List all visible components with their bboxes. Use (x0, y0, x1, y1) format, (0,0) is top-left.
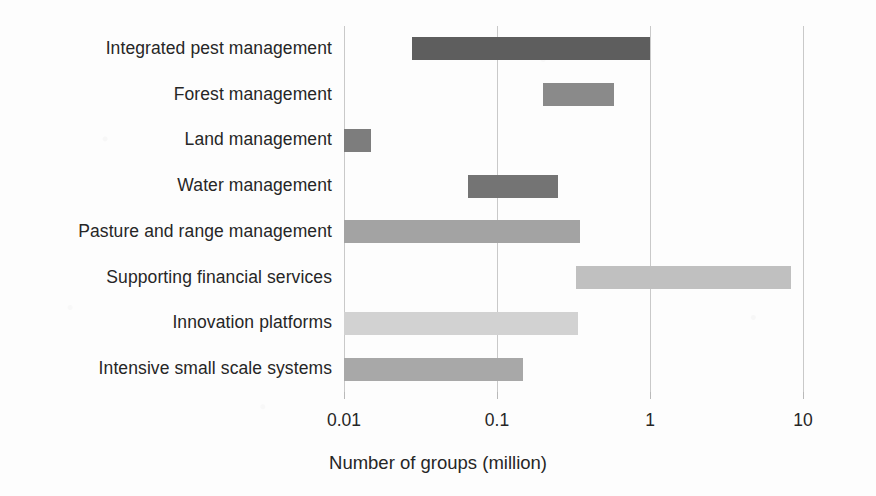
tickmark-0.1 (497, 392, 498, 399)
gridline-1 (650, 26, 651, 392)
x-tick-label: 0.01 (294, 410, 394, 431)
x-axis-title: Number of groups (million) (0, 452, 876, 474)
category-label: Innovation platforms (172, 314, 332, 332)
gridline-0.1 (497, 26, 498, 392)
bar-land-management (344, 129, 371, 152)
range-bar-chart: Integrated pest managementForest managem… (0, 0, 876, 496)
gridline-0.01 (344, 26, 345, 392)
bar-integrated-pest-management (412, 37, 650, 60)
bar-forest-management (543, 83, 614, 106)
bar-supporting-financial-services (576, 266, 791, 289)
gridline-10 (803, 26, 804, 392)
bar-intensive-small-scale-systems (344, 358, 523, 381)
category-label: Intensive small scale systems (99, 360, 332, 378)
tickmark-10 (803, 392, 804, 399)
tickmark-0.01 (344, 392, 345, 399)
bar-pasture-and-range-management (344, 220, 580, 243)
bar-innovation-platforms (344, 312, 578, 335)
x-tick-label: 1 (600, 410, 700, 431)
x-tick-label: 0.1 (447, 410, 547, 431)
category-label: Land management (185, 131, 332, 149)
category-label: Integrated pest management (106, 40, 332, 58)
x-tick-label: 10 (753, 410, 853, 431)
category-label: Supporting financial services (106, 269, 332, 287)
bar-water-management (468, 175, 558, 198)
tickmark-1 (650, 392, 651, 399)
category-label: Pasture and range management (78, 223, 332, 241)
category-label: Forest management (174, 86, 332, 104)
category-label: Water management (177, 177, 332, 195)
